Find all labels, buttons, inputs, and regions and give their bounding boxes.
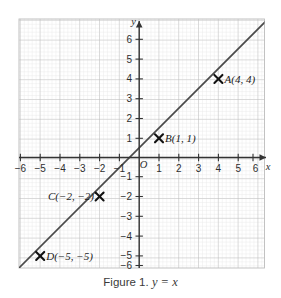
x-tick-label: −3 — [74, 163, 86, 174]
coordinate-plane: −6 −5 −4 −3 −2 −1 1 2 3 4 5 6 6 5 4 3 2 … — [0, 0, 281, 272]
y-axis-label: y — [130, 16, 136, 27]
x-tick-label: 1 — [156, 163, 162, 174]
x-tick-label: 3 — [196, 163, 202, 174]
point-label-b: B(1, 1) — [165, 132, 196, 145]
y-tick-label: 2 — [126, 113, 132, 124]
figure-container: −6 −5 −4 −3 −2 −1 1 2 3 4 5 6 6 5 4 3 2 … — [0, 0, 281, 298]
point-label-a: A(4, 4) — [224, 73, 256, 86]
x-tick-label: 4 — [216, 163, 222, 174]
x-tick-label: −4 — [54, 163, 66, 174]
point-label-c: C(−2, −2) — [48, 190, 94, 203]
x-tick-label: 5 — [235, 163, 241, 174]
origin-label: O — [140, 159, 148, 170]
y-tick-label: −2 — [121, 191, 133, 202]
x-tick-label: 6 — [253, 163, 259, 174]
x-tick-label: 2 — [176, 163, 182, 174]
caption-prefix: Figure 1. — [103, 276, 148, 288]
y-tick-label: 4 — [126, 73, 132, 84]
y-tick-label: −3 — [121, 211, 133, 222]
y-tick-label: 5 — [126, 54, 132, 65]
point-label-d: D(−5, −5) — [45, 250, 93, 263]
y-tick-label: 6 — [126, 34, 132, 45]
x-axis-label: x — [265, 161, 271, 172]
x-tick-label: −2 — [94, 163, 106, 174]
y-tick-label: 3 — [126, 93, 132, 104]
x-tick-label: −6 — [15, 163, 27, 174]
y-tick-label: −6 — [121, 260, 133, 271]
x-tick-label: −5 — [34, 163, 46, 174]
y-tick-label: −1 — [121, 171, 133, 182]
figure-caption: Figure 1. y = x — [0, 272, 281, 298]
coordinate-grid-svg: −6 −5 −4 −3 −2 −1 1 2 3 4 5 6 6 5 4 3 2 … — [0, 0, 281, 272]
y-tick-label: −4 — [121, 231, 133, 242]
y-tick-label: 1 — [126, 133, 132, 144]
caption-equation: y = x — [152, 275, 178, 289]
